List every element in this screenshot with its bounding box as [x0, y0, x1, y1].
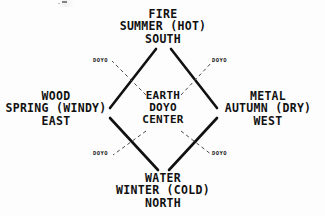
- node-label-earth: EARTH DOYO CENTER: [142, 90, 184, 126]
- fire-direction: SOUTH: [120, 33, 207, 45]
- fire-season: SUMMER (HOT): [120, 20, 207, 32]
- metal-direction: WEST: [225, 115, 312, 127]
- doyo-marker-northwest: DOYO: [93, 57, 108, 63]
- five-elements-diagram: FIRE SUMMER (HOT) SOUTH WOOD SPRING (WIN…: [0, 0, 325, 216]
- wood-season: SPRING (WINDY): [5, 102, 106, 114]
- doyo-connector-northwest: [112, 61, 146, 95]
- doyo-marker-southwest: DOYO: [93, 150, 108, 156]
- edge-wood-water: [110, 118, 158, 170]
- node-label-wood: WOOD SPRING (WINDY) EAST: [5, 90, 106, 127]
- water-season: WINTER (COLD): [116, 184, 210, 196]
- edge-metal-water: [169, 118, 217, 170]
- doyo-marker-southeast: DOYO: [212, 150, 227, 156]
- metal-season: AUTUMN (DRY): [225, 102, 312, 114]
- water-direction: NORTH: [116, 197, 210, 209]
- wood-direction: EAST: [5, 115, 106, 127]
- doyo-marker-northeast: DOYO: [212, 57, 227, 63]
- earth-season: DOYO: [142, 102, 184, 114]
- earth-direction: CENTER: [142, 114, 184, 126]
- node-label-water: WATER WINTER (COLD) NORTH: [116, 172, 210, 209]
- node-label-metal: METAL AUTUMN (DRY) WEST: [225, 90, 312, 127]
- node-label-fire: FIRE SUMMER (HOT) SOUTH: [120, 8, 207, 45]
